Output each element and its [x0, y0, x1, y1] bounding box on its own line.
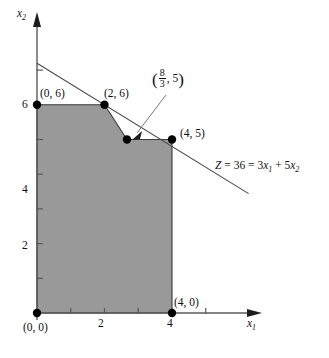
vertex-dot	[33, 309, 41, 317]
vertex-dot	[168, 309, 176, 317]
x-axis-arrow	[247, 309, 262, 317]
vertex-dot	[100, 101, 108, 109]
y-tick-label-4: 4	[22, 184, 28, 196]
plot-svg	[0, 0, 329, 358]
objective-function-label: Z = 36 = 3x1 + 5x2	[215, 160, 299, 174]
vertex-dot	[33, 101, 41, 109]
y-axis-label: x2	[17, 8, 26, 22]
paren-close: )	[178, 70, 184, 89]
x-tick-label-2: 2	[98, 318, 104, 330]
x-axis-label: x1	[247, 318, 256, 332]
paren-open: (	[152, 70, 158, 89]
vertex-label-8-3-5: (83, 5)	[152, 68, 184, 90]
vertex-label-4-5: (4, 5)	[180, 128, 205, 140]
y-tick-label-6: 6	[22, 99, 28, 111]
vertex-label-0-6: (0, 6)	[40, 88, 65, 100]
feasible-region	[37, 105, 172, 313]
vertex-label-origin: (0, 0)	[23, 322, 48, 334]
fraction-8-over-3: 83	[159, 68, 166, 90]
x-tick-label-4: 4	[167, 318, 173, 330]
vertex-dot	[168, 135, 176, 143]
annotation-leader-line	[137, 95, 166, 133]
vertex-label-4-0: (4, 0)	[174, 297, 199, 309]
y-axis-arrow	[33, 12, 41, 27]
vertex-label-2-6: (2, 6)	[104, 88, 129, 100]
vertex-dot	[123, 135, 131, 143]
figure-canvas: x2 x1 2 4 2 4 6 (0, 0) (0, 6) (2, 6) (4,…	[0, 0, 329, 358]
y-tick-label-2: 2	[22, 240, 28, 252]
